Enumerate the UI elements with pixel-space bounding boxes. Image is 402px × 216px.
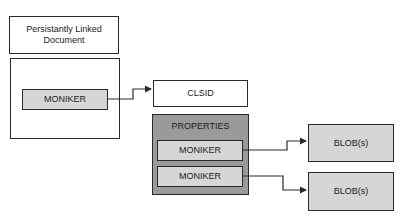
connector-moniker2-to-blob2	[243, 176, 306, 190]
properties-moniker-label-2: MONIKER	[179, 171, 221, 182]
properties-label: PROPERTIES	[153, 121, 248, 132]
properties-moniker-box-1: MONIKER	[157, 140, 243, 161]
clsid-label: CLSID	[187, 88, 214, 99]
document-title-label: Persistantly Linked Document	[10, 24, 118, 46]
blob-label-2: BLOB(s)	[334, 186, 369, 197]
blob-box-1: BLOB(s)	[308, 124, 394, 162]
document-moniker-label: MONIKER	[44, 94, 86, 105]
blob-label-1: BLOB(s)	[334, 138, 369, 149]
properties-moniker-box-2: MONIKER	[157, 166, 243, 187]
properties-moniker-label-1: MONIKER	[179, 145, 221, 156]
document-title-box: Persistantly Linked Document	[9, 16, 119, 54]
clsid-box: CLSID	[153, 80, 248, 107]
connector-moniker1-to-blob1	[243, 141, 306, 150]
document-moniker-box: MONIKER	[22, 89, 108, 110]
blob-box-2: BLOB(s)	[308, 172, 394, 211]
